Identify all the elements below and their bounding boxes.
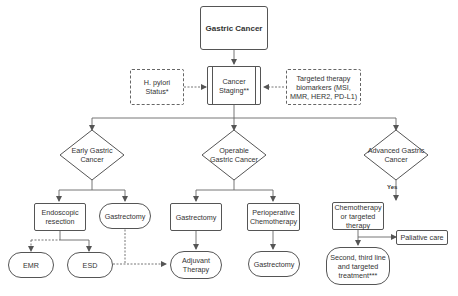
operable-gastrectomy-node: Gastrectomy [170,203,222,231]
advanced-gastric-cancer-decision: Advanced Gastric Cancer [366,142,426,168]
cancer-staging-label: Cancer Staging** [208,77,260,95]
endoscopic-resection-node: Endoscopic resection [34,203,86,231]
chemotherapy-targeted-node: Chemotherapy or targeted therapy [332,202,384,230]
yes-label: Yes [387,184,397,190]
esd-node: ESD [67,252,113,278]
cancer-staging-node: Cancer Staging** [207,66,261,105]
hpylori-status-node: H. pylori Status* [130,69,184,105]
biomarkers-node: Targeted therapy biomarkers (MSI, MMR, H… [286,69,361,105]
palliative-care-node: Paliative care [396,230,448,245]
operable-gastric-cancer-decision: Operable Gastric Cancer [207,142,261,168]
adjuvant-therapy-node: Adjuvant Therapy [170,251,222,279]
second-third-line-node: Second, third line and targeted treatmen… [326,247,390,285]
gastric-cancer-node: Gastric Cancer [200,6,268,50]
early-gastric-cancer-decision: Early Gastric Cancer [66,142,118,168]
early-gastrectomy-node: Gastrectomy [99,203,151,229]
perioperative-gastrectomy-node: Gastrectomy [248,251,300,277]
emr-node: EMR [8,252,54,278]
perioperative-chemotherapy-node: Perioperative Chemotherapy [247,203,300,231]
